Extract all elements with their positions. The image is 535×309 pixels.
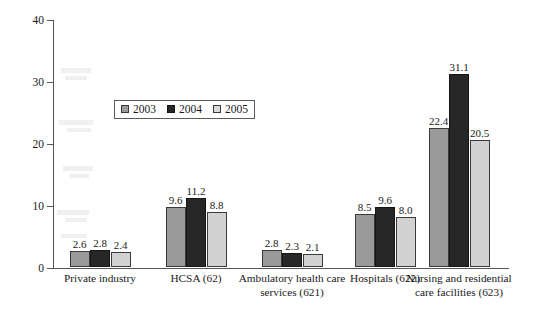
bar-group: 2.82.32.1	[262, 19, 323, 267]
bar-value-label: 22.4	[429, 115, 448, 127]
x-axis-category-line: services (621)	[217, 286, 367, 300]
legend-label-2005: 2005	[225, 103, 248, 115]
plot-area: 010203040 2.62.82.49.611.28.82.82.32.18.…	[53, 20, 508, 268]
bar-value-label: 8.5	[358, 201, 372, 213]
x-axis-line	[53, 268, 509, 269]
bar: 2.8	[90, 250, 110, 267]
bar: 2.1	[303, 254, 323, 267]
legend-label-2004: 2004	[179, 103, 202, 115]
bar-value-label: 2.4	[114, 239, 128, 251]
bar-value-label: 9.6	[378, 194, 392, 206]
bar-value-label: 2.6	[73, 238, 87, 250]
bar-group: 22.431.120.5	[429, 19, 490, 267]
legend-item-2005: 2005	[213, 103, 248, 115]
bar: 22.4	[429, 128, 449, 267]
x-axis-category-label: Nursing and residentialcare facilities (…	[384, 272, 534, 299]
bar: 2.6	[70, 251, 90, 267]
y-axis-line	[53, 20, 54, 269]
bar-chart: Rate per 10,000 workers 010203040 2.62.8…	[0, 0, 535, 309]
bar-value-label: 2.8	[265, 237, 279, 249]
legend-item-2004: 2004	[167, 103, 202, 115]
y-tick-mark	[47, 268, 53, 269]
y-tick-mark	[47, 82, 53, 83]
bar: 8.8	[207, 212, 227, 267]
x-axis-category-line: care facilities (623)	[384, 286, 534, 300]
bar: 31.1	[449, 74, 469, 267]
bar-value-label: 20.5	[470, 127, 489, 139]
bar: 20.5	[470, 140, 490, 267]
bar-group: 2.62.82.4	[70, 19, 131, 267]
y-tick-label: 10	[33, 200, 45, 212]
bar: 11.2	[186, 198, 206, 267]
bar: 2.4	[111, 252, 131, 267]
bar-value-label: 2.1	[306, 241, 320, 253]
y-tick-mark	[47, 20, 53, 21]
y-tick-label: 20	[33, 138, 45, 150]
y-tick-mark	[47, 144, 53, 145]
legend-item-2003: 2003	[121, 103, 156, 115]
legend-swatch-icon-2005	[213, 105, 221, 113]
bar: 9.6	[166, 207, 186, 267]
y-tick-label: 40	[33, 14, 45, 26]
legend-label-2003: 2003	[133, 103, 156, 115]
legend-swatch-icon-2003	[121, 105, 129, 113]
bar-value-label: 11.2	[187, 185, 206, 197]
bar-group: 9.611.28.8	[166, 19, 227, 267]
bar-value-label: 8.8	[210, 199, 224, 211]
x-axis-category-line: Nursing and residential	[384, 272, 534, 286]
y-tick-mark	[47, 206, 53, 207]
bar-value-label: 2.3	[285, 240, 299, 252]
bar-value-label: 31.1	[449, 61, 468, 73]
bar-value-label: 8.0	[399, 204, 413, 216]
bar-value-label: 9.6	[169, 194, 183, 206]
bar: 8.5	[355, 214, 375, 267]
bar-value-label: 2.8	[93, 237, 107, 249]
y-tick-label: 30	[33, 76, 45, 88]
bar: 2.3	[282, 253, 302, 267]
legend-swatch-icon-2004	[167, 105, 175, 113]
bar-group: 8.59.68.0	[355, 19, 416, 267]
chart-legend: 2003 2004 2005	[114, 100, 255, 119]
bar: 8.0	[396, 217, 416, 267]
bar: 9.6	[375, 207, 395, 267]
bar: 2.8	[262, 250, 282, 267]
